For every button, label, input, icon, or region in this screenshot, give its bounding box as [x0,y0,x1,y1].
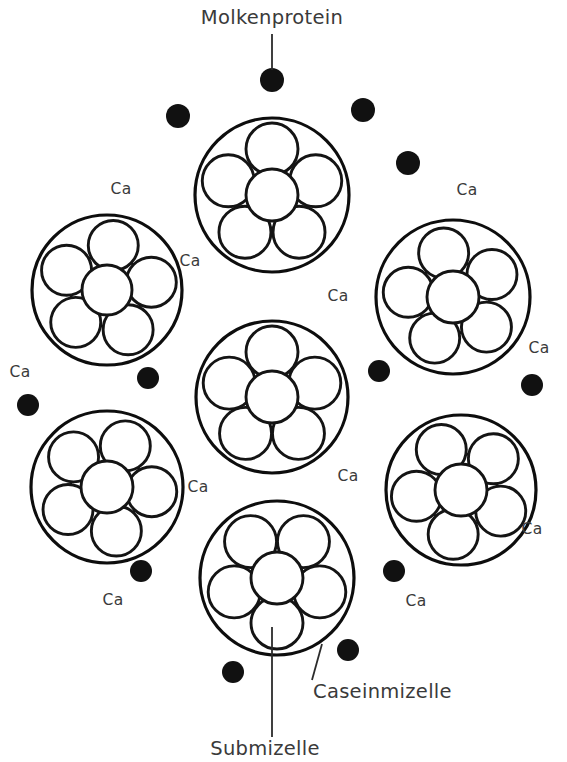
micelle-right-upper [376,220,530,374]
submicelle-center [246,169,298,221]
submicelle-center [82,265,132,315]
whey-protein-dot [351,98,375,122]
submicelle [391,471,441,521]
calcium-label: Ca [110,180,131,198]
submicelle-center [81,461,133,513]
calcium-label: Ca [102,591,123,609]
calcium-label: Ca [337,467,358,485]
calcium-label: Ca [456,181,477,199]
calcium-label: Ca [327,287,348,305]
micelle-bottom-center [200,501,354,655]
whey-protein-dot [368,360,390,382]
calcium-label: Ca [187,478,208,496]
whey-protein-dot [396,151,420,175]
submicelle-center [427,271,479,323]
submicelle-center [435,464,487,516]
micelle-right-lower [386,415,536,565]
submicelle [127,467,177,517]
micelle-left-upper [32,215,182,365]
whey-protein-dot [137,367,159,389]
whey-protein-dot [383,560,405,582]
whey-protein-dot [17,394,39,416]
whey-protein-dot [222,661,244,683]
calcium-label: Ca [405,592,426,610]
micelle-top-center [195,118,349,272]
caseinmizelle-label: Caseinmizelle [313,680,452,703]
whey-protein-dot [521,374,543,396]
submicelle [88,220,138,270]
calcium-label: Ca [528,339,549,357]
whey-protein-dot [337,639,359,661]
calcium-label: Ca [9,363,30,381]
casein-micelle-diagram: CaCaCaCaCaCaCaCaCaCaCa MolkenproteinCase… [0,0,567,762]
submicelle [428,509,478,559]
submicelle-center [251,552,303,604]
submicelle [91,506,141,556]
molkenprotein-label: Molkenprotein [201,6,343,29]
diagram-root: CaCaCaCaCaCaCaCaCaCaCa MolkenproteinCase… [0,0,567,762]
submizelle-label: Submizelle [210,737,320,760]
submicelle [126,257,176,307]
submicelle [246,123,298,175]
submicelle-center [246,371,298,423]
whey-protein-dot [166,104,190,128]
micelle-center [196,321,348,473]
whey-protein-dot [130,560,152,582]
submicelle [419,228,469,278]
micelle-left-lower [31,411,183,563]
whey-protein-dot [260,68,284,92]
calcium-label: Ca [521,520,542,538]
submicelle [383,267,433,317]
calcium-label: Ca [179,252,200,270]
